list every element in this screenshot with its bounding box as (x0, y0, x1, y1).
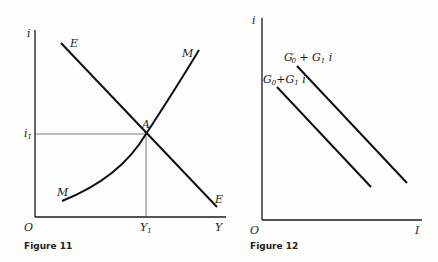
figures-canvas: i O Y i1 Y1 E E M M A i O I G0+G1 i G′0 … (0, 0, 438, 262)
fig12-x-axis-label: I (414, 224, 420, 237)
fig12-y-axis-label: i (252, 14, 256, 27)
fig11-E-top-label: E (69, 37, 78, 50)
fig11-M-bottom-label: M (56, 186, 69, 199)
fig12-line-G0 (277, 87, 371, 187)
figure-12-caption: Figure 12 (250, 241, 298, 251)
fig11-y1-label: Y1 (140, 221, 152, 235)
fig12-line-G0-label: G0+G1 i (263, 73, 306, 87)
fig11-origin-label: O (24, 221, 33, 234)
fig11-x-axis-label: Y (215, 221, 224, 234)
fig12-origin-label: O (250, 224, 259, 237)
fig11-M-top-label: M (181, 47, 194, 60)
figure-12: i O I G0+G1 i G′0 + G1 i (250, 14, 422, 237)
figure-11: i O Y i1 Y1 E E M M A (24, 27, 226, 235)
fig11-E-bottom-label: E (214, 193, 223, 206)
fig11-i1-label: i1 (24, 127, 32, 141)
fig12-line-G0-prime-label: G′0 + G1 i (284, 51, 332, 65)
fig11-curve-E (61, 43, 217, 207)
fig11-y-axis-label: i (27, 27, 31, 40)
figure-11-caption: Figure 11 (24, 241, 72, 251)
fig11-curve-M (62, 50, 199, 201)
fig11-point-A-label: A (141, 118, 150, 131)
